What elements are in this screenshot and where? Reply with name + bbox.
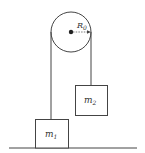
pulley-axle xyxy=(69,30,73,34)
atwood-diagram: R0 m2 m1 xyxy=(0,0,145,153)
